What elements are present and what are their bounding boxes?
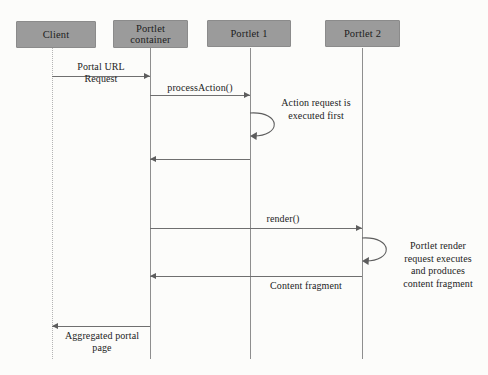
message-label-content-fragment: Content fragment: [250, 280, 362, 292]
message-label-portal-url-request: Portal URL Request: [60, 61, 142, 85]
sequence-diagram-canvas: Client Portlet container Portlet 1 Portl…: [0, 0, 488, 375]
lifeline-client: [52, 48, 53, 359]
message-label-render: render(): [250, 213, 316, 225]
message-arrowhead-action-return: [150, 156, 156, 162]
message-line-process-action: [150, 95, 250, 96]
message-label-aggregated-portal-page: Aggregated portal page: [54, 330, 150, 354]
message-line-aggregated-portal-page: [52, 326, 150, 327]
message-arrowhead-render: [356, 225, 362, 231]
lifeline-portlet-2: [362, 48, 363, 359]
participant-portlet-1: Portlet 1: [207, 20, 291, 47]
message-line-render: [150, 228, 362, 229]
message-line-action-return: [150, 159, 250, 160]
note-action-executed-first: Action request is executed first: [262, 97, 370, 122]
participant-portlet-container-label: Portlet container: [114, 23, 187, 46]
message-arrowhead-portal-url-request: [144, 73, 150, 79]
message-label-process-action: processAction(): [152, 82, 248, 94]
message-arrowhead-content-fragment: [150, 273, 156, 279]
note-portlet-render-executes: Portlet render request executes and prod…: [392, 240, 484, 290]
participant-portlet-1-label: Portlet 1: [228, 28, 269, 40]
message-arrowhead-aggregated-portal-page: [52, 323, 58, 329]
participant-portlet-2: Portlet 2: [325, 20, 400, 47]
message-line-content-fragment: [150, 276, 362, 277]
lifeline-portlet-1: [250, 48, 251, 359]
participant-portlet-2-label: Portlet 2: [342, 28, 383, 40]
participant-client: Client: [16, 21, 96, 48]
participant-portlet-container: Portlet container: [113, 20, 188, 48]
participant-client-label: Client: [41, 29, 72, 41]
